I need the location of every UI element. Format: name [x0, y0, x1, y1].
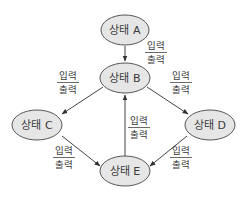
output-label: 출력 [59, 84, 77, 95]
node-a-label: 상태 A [109, 24, 140, 37]
node-e: 상태 E [100, 156, 150, 186]
output-label: 출력 [172, 159, 190, 170]
node-e-label: 상태 E [110, 165, 140, 178]
input-label: 입력 [55, 145, 73, 156]
node-c-label: 상태 C [21, 119, 52, 132]
edge-label-a-b: 입력 출력 [145, 40, 167, 65]
edge-label-d-e: 입력 출력 [170, 145, 192, 170]
input-label: 입력 [172, 70, 190, 81]
node-b-label: 상태 B [109, 72, 140, 85]
node-d-label: 상태 D [194, 119, 226, 132]
edge-label-b-c: 입력 출력 [57, 70, 79, 95]
input-label: 입력 [172, 145, 190, 156]
output-label: 출력 [147, 54, 165, 65]
edge-label-e-b: 입력 출력 [128, 115, 150, 140]
state-diagram: 상태 A 상태 B 상태 C 상태 D 상태 E 입력 출력 입력 출력 입력 … [0, 0, 248, 198]
output-label: 출력 [130, 129, 148, 140]
input-label: 입력 [147, 40, 165, 51]
node-d: 상태 D [185, 110, 235, 140]
node-c: 상태 C [12, 110, 62, 140]
input-label: 입력 [59, 70, 77, 81]
input-label: 입력 [130, 115, 148, 126]
output-label: 출력 [172, 84, 190, 95]
output-label: 출력 [55, 159, 73, 170]
edge-label-b-d: 입력 출력 [170, 70, 192, 95]
edge-label-c-e: 입력 출력 [53, 145, 75, 170]
node-b: 상태 B [100, 63, 150, 93]
node-a: 상태 A [101, 15, 149, 45]
